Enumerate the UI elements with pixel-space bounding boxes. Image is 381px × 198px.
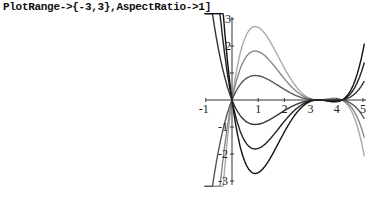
svg-text:-3: -3 — [218, 174, 228, 188]
svg-text:2: 2 — [281, 102, 287, 116]
svg-text:5: 5 — [360, 102, 366, 116]
svg-text:3: 3 — [308, 102, 314, 116]
svg-text:-1: -1 — [218, 120, 228, 134]
svg-text:-1: -1 — [199, 102, 209, 116]
svg-text:-2: -2 — [218, 147, 228, 161]
plot: -112345321-1-2-3 — [0, 0, 381, 198]
series-line — [205, 14, 365, 174]
svg-text:4: 4 — [334, 102, 340, 116]
svg-text:1: 1 — [255, 102, 261, 116]
